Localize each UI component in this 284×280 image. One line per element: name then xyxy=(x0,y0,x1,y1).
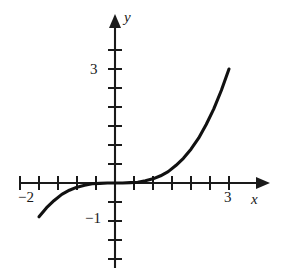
y-axis-label: y xyxy=(124,10,131,25)
x-axis-group xyxy=(20,176,270,190)
graph-figure: −2 3 3 −1 x y xyxy=(0,0,284,280)
x-tick-label-3: 3 xyxy=(224,190,232,205)
y-tick-label-neg1: −1 xyxy=(85,211,101,226)
x-axis-label: x xyxy=(251,192,258,207)
x-tick-label-neg2: −2 xyxy=(18,190,34,205)
x-axis-arrow-icon xyxy=(256,177,270,189)
y-tick-label-3: 3 xyxy=(90,62,98,77)
function-curve xyxy=(39,69,229,217)
y-axis-group xyxy=(108,14,122,268)
coordinate-plot xyxy=(0,0,284,280)
y-axis-arrow-icon xyxy=(109,14,121,28)
